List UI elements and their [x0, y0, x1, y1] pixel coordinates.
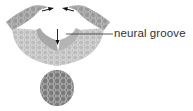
neural-groove-label: neural groove [114, 27, 186, 39]
neural-groove-diagram [0, 0, 193, 111]
ectoderm-left [6, 5, 48, 30]
ectoderm-right [68, 5, 110, 30]
notochord [40, 70, 74, 106]
